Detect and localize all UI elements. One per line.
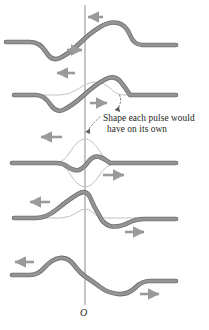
wave-superposition-figure: Shape each pulse would have on its own O [0,0,209,330]
panel-beginning-overlap [14,73,176,111]
annotation-text-line-1: Shape each pulse would [103,113,195,124]
origin-label: O [80,307,87,318]
pulse-wave-panel5-outline [12,258,176,294]
panel-passed-through [12,258,176,294]
pulse-wave-panel1 [6,23,176,60]
figure-canvas [0,0,209,330]
panel-separating [14,192,176,232]
pulse-wave-panel4 [14,192,176,226]
panel-full-overlap [12,137,176,187]
pulse-wave-panel3 [12,157,176,171]
annotation-text-line-2: have on its own [107,124,167,135]
leader-arrow-to-panel3 [85,127,92,134]
panel-approaching [6,17,176,59]
leader-arrow-to-panel2 [114,105,121,112]
